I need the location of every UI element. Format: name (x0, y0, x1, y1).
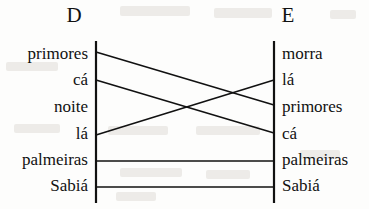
right-item-label: morra (282, 45, 323, 62)
right-item-label: lá (282, 71, 294, 88)
left-item-label: Sabiá (50, 177, 88, 194)
right-item-label: cá (282, 125, 297, 142)
diagram-page: D E primores cá noite lá palmeiras Sabiá… (0, 0, 369, 209)
right-item-label: palmeiras (282, 151, 348, 168)
connection-line (96, 52, 274, 105)
connection-lines (96, 52, 274, 187)
vertical-rails (96, 41, 274, 203)
left-item-label: cá (73, 71, 88, 88)
left-item-label: noite (54, 98, 88, 115)
left-item-label: palmeiras (22, 151, 88, 168)
right-item-label: Sabiá (282, 177, 320, 194)
left-item-label: lá (76, 125, 88, 142)
right-item-label: primores (282, 98, 342, 115)
left-item-label: primores (28, 45, 88, 62)
